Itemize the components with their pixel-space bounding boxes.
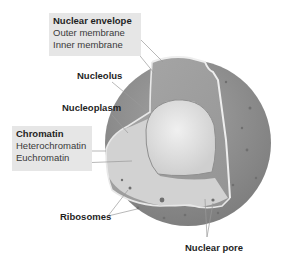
chromatin-label-box: Chromatin Heterochromatin Euchromatin [12, 126, 92, 171]
nucleus-diagram: Nuclear envelope Outer membrane Inner me… [0, 0, 284, 271]
nucleoplasm-label: Nucleoplasm [62, 102, 121, 114]
chromatin-heading: Chromatin [16, 128, 88, 140]
nucleolus-shape [146, 100, 216, 176]
inner-membrane-label: Inner membrane [53, 39, 137, 51]
nuclear-envelope-heading: Nuclear envelope [53, 15, 137, 27]
outer-membrane-label: Outer membrane [53, 27, 137, 39]
ribosomes-label: Ribosomes [60, 211, 111, 223]
nucleolus-label: Nucleolus [77, 70, 122, 82]
heterochromatin-label: Heterochromatin [16, 140, 88, 152]
euchromatin-label: Euchromatin [16, 152, 88, 164]
nuclear-pore-label: Nuclear pore [185, 242, 243, 254]
nuclear-envelope-label-box: Nuclear envelope Outer membrane Inner me… [49, 13, 141, 56]
